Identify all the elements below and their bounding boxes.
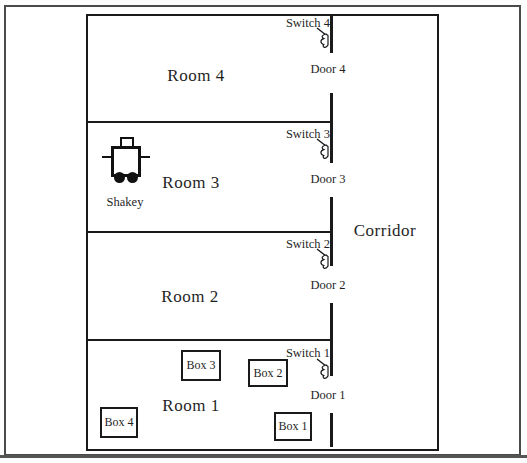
room-divider-2-1	[87, 339, 332, 341]
corridor-wall-segment	[330, 413, 333, 447]
room-2-label: Room 2	[130, 287, 250, 307]
door-3-label: Door 3	[297, 172, 359, 187]
shakey-label: Shakey	[90, 195, 160, 210]
room-3-label: Room 3	[131, 173, 251, 193]
door-1-label: Door 1	[297, 388, 359, 403]
door-4-label: Door 4	[297, 62, 359, 77]
robot-wheel	[114, 172, 125, 183]
bottom-rule	[0, 455, 527, 458]
corridor-label: Corridor	[330, 221, 440, 241]
box-1: Box 1	[274, 412, 312, 441]
room-divider-4-3	[87, 121, 332, 123]
switch-icon	[316, 357, 332, 379]
robot-wheel	[127, 172, 138, 183]
box-2-label: Box 2	[253, 366, 282, 381]
room-1-label: Room 1	[131, 396, 251, 416]
door-2-label: Door 2	[297, 278, 359, 293]
shakey-world-diagram: Room 4 Room 3 Room 2 Room 1 Corridor Swi…	[0, 0, 527, 463]
room-4-label: Room 4	[136, 66, 256, 86]
switch-icon	[316, 247, 332, 269]
box-3: Box 3	[181, 350, 221, 381]
box-1-label: Box 1	[278, 419, 307, 434]
box-3-label: Box 3	[186, 358, 215, 373]
box-2: Box 2	[248, 359, 288, 387]
box-4-label: Box 4	[104, 415, 133, 430]
box-4: Box 4	[100, 407, 138, 438]
switch-icon	[316, 137, 332, 159]
room-divider-3-2	[87, 231, 332, 233]
switch-icon	[316, 26, 332, 48]
